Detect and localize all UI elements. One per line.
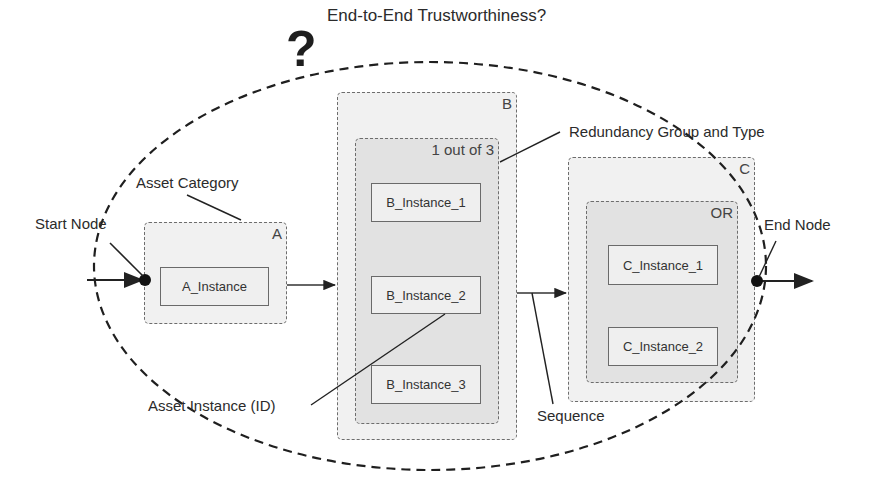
leader-asset-category bbox=[187, 195, 241, 220]
leader-end-node bbox=[759, 241, 776, 277]
end-node bbox=[751, 275, 763, 287]
redundancy-group-label: Redundancy Group and Type bbox=[569, 123, 765, 140]
overlay-lines bbox=[0, 0, 882, 498]
leader-asset-instance bbox=[311, 314, 445, 405]
leader-redundancy bbox=[500, 132, 560, 162]
leader-sequence bbox=[532, 293, 553, 404]
start-node bbox=[139, 274, 151, 286]
end-node-label: End Node bbox=[764, 216, 831, 233]
question-mark-icon: ? bbox=[286, 24, 317, 74]
sequence-label: Sequence bbox=[537, 407, 605, 424]
leader-start-node bbox=[110, 243, 143, 276]
start-node-label: Start Node bbox=[35, 215, 107, 232]
asset-category-label: Asset Category bbox=[136, 174, 239, 191]
asset-instance-label: Asset Instance (ID) bbox=[148, 397, 276, 414]
diagram-title: End-to-End Trustworthiness? bbox=[327, 6, 546, 26]
